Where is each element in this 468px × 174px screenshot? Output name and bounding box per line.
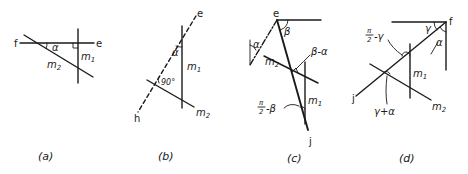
angle-half-pi-minus-beta: -β (266, 103, 277, 114)
label-m2: m2 (265, 56, 280, 69)
leader-half-pi-gamma (388, 40, 402, 55)
point-j: j (308, 136, 312, 147)
right-angle-arc (158, 77, 159, 83)
leader-gamma-alpha (386, 76, 387, 104)
point-h: h (134, 113, 140, 124)
geometry-figure: f e α m1 m2 (a) e h α 90° m1 m2 (b) e j (0, 0, 468, 174)
gamma-arc (434, 22, 437, 30)
angle-gamma-plus-alpha: γ+α (374, 106, 395, 117)
angle-alpha: α (436, 37, 443, 48)
fraction-two: 2 (367, 36, 372, 44)
fraction-two: 2 (259, 108, 264, 116)
panel-d: f j γ α π 2 -γ γ+α m1 m2 (d) (351, 16, 453, 165)
caption-a: (a) (38, 150, 53, 163)
alpha-arc (46, 43, 47, 49)
angle-alpha: α (172, 47, 179, 58)
caption-c: (c) (287, 152, 302, 165)
label-m1: m1 (187, 61, 201, 74)
caption-b: (b) (158, 150, 174, 163)
point-f: f (14, 38, 18, 49)
angle-half-pi-minus-gamma: -γ (374, 31, 385, 42)
alpha-arc (440, 27, 446, 32)
angle-beta-minus-alpha: β-α (310, 46, 328, 57)
label-m2: m2 (47, 59, 62, 72)
fraction-pi: π (259, 99, 264, 107)
point-e: e (197, 8, 203, 19)
panel-b: e h α 90° m1 m2 (b) (134, 8, 211, 163)
caption-d: (d) (399, 152, 415, 165)
fraction-pi: π (367, 27, 372, 35)
point-j: j (351, 93, 355, 104)
angle-gamma: γ (425, 23, 432, 34)
point-f: f (449, 16, 453, 27)
angle-alpha: α (52, 42, 59, 53)
point-e: e (273, 8, 279, 19)
point-e: e (96, 38, 102, 49)
label-m1: m1 (81, 51, 95, 64)
leader-beta-alpha (296, 55, 310, 69)
angle-beta: β (283, 26, 291, 37)
label-m1: m1 (308, 95, 322, 108)
label-m2: m2 (432, 101, 447, 114)
label-m2: m2 (196, 107, 211, 120)
right-angle-mark (73, 43, 78, 48)
panel-a: f e α m1 m2 (a) (14, 29, 102, 163)
angle-90: 90° (161, 78, 175, 87)
leader-half-pi-beta (284, 104, 299, 108)
label-m1: m1 (413, 68, 427, 81)
panel-c: e j α β β-α m2 m1 π 2 -β (c) (250, 8, 328, 165)
angle-alpha: α (253, 39, 260, 50)
